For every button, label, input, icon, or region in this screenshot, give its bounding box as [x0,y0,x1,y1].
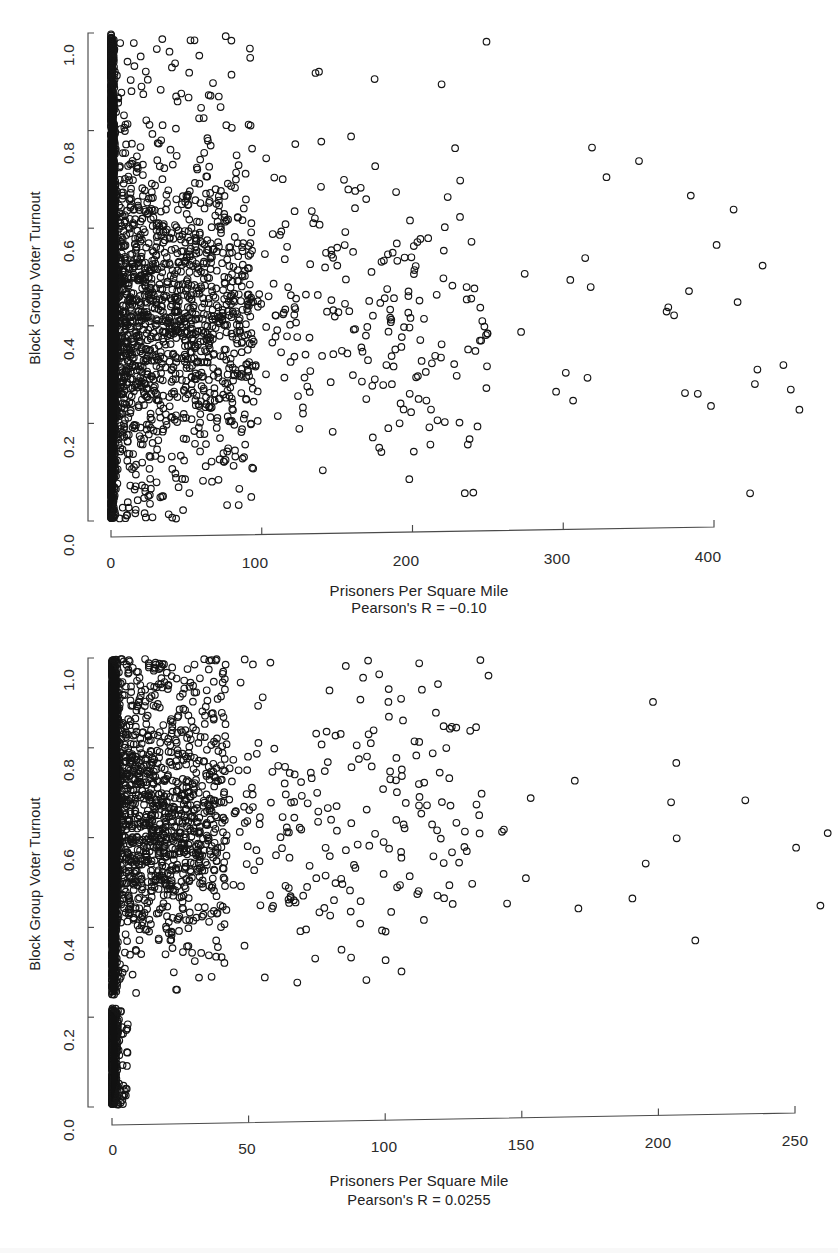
y-tick-label: 0.8 [60,750,78,790]
y-tick-label: 0.2 [60,1020,78,1060]
x-tick-label: 150 [496,1136,546,1154]
y-tick-label: 0.0 [60,1110,78,1150]
x-tick-label: 250 [770,1132,820,1150]
pearson-r-label: Pearson's R = −0.10 [0,600,838,616]
x-tick-label: 50 [222,1140,272,1158]
y-tick-label: 1.0 [60,660,78,700]
y-tick-label: 0.8 [60,133,78,173]
y-tick-label: 0.0 [60,525,78,565]
y-axis-title: Block Group Voter Turnout [27,178,43,378]
y-tick-label: 0.6 [60,231,78,271]
scatter-plot-1 [0,0,838,626]
x-tick-label: 300 [532,550,582,568]
scatter-panel-1: 1.0 0.8 0.6 0.4 0.2 0.0 Block Group Vote… [0,0,838,626]
x-tick-label: 0 [93,1141,133,1159]
y-tick-label: 0.6 [60,840,78,880]
pearson-r-label: Pearson's R = 0.0255 [0,1192,838,1208]
x-tick-label: 200 [381,552,431,570]
x-tick-label: 400 [683,548,733,566]
y-tick-label: 0.4 [60,930,78,970]
y-axis-title: Block Group Voter Turnout [27,784,43,984]
y-tick-label: 0.2 [60,427,78,467]
page-edge-artifact [0,1248,838,1253]
scatter-panel-2: 1.0 0.8 0.6 0.4 0.2 0.0 Block Group Vote… [0,626,838,1253]
x-tick-label: 200 [633,1134,683,1152]
x-axis-title: Prisoners Per Square Mile [0,1172,838,1189]
figure-page: 1.0 0.8 0.6 0.4 0.2 0.0 Block Group Vote… [0,0,838,1253]
x-tick-label: 0 [91,554,131,572]
x-tick-label: 100 [359,1138,409,1156]
y-tick-label: 0.4 [60,329,78,369]
x-axis-title: Prisoners Per Square Mile [0,582,838,599]
x-tick-label: 100 [230,554,280,572]
y-tick-label: 1.0 [60,35,78,75]
